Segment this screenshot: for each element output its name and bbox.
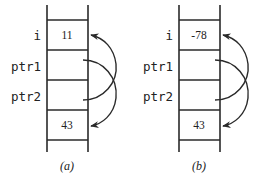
diagram-a: i ptr1 ptr2 11 43 (a) [11,5,116,173]
memory-diagram: i ptr1 ptr2 11 43 (a) i ptr1 ptr2 -78 43… [0,0,266,178]
var-label-ptr2: ptr2 [143,89,173,104]
cell-value-i: -78 [191,29,207,41]
var-label-ptr1: ptr1 [143,59,173,74]
var-label-i: i [33,28,41,43]
var-label-ptr1: ptr1 [11,59,41,74]
caption-a: (a) [60,159,74,173]
var-label-ptr2: ptr2 [11,89,41,104]
cell-value-bottom: 43 [61,119,73,131]
cell-value-i: 11 [61,29,72,41]
var-label-i: i [165,28,173,43]
diagram-b: i ptr1 ptr2 -78 43 (b) [143,5,248,173]
cell-value-bottom: 43 [193,119,205,131]
caption-b: (b) [192,159,206,173]
